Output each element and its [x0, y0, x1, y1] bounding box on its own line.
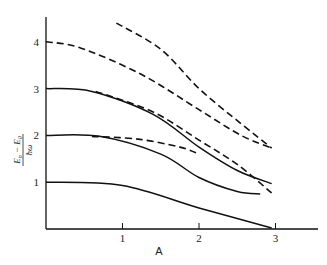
- dashed-from-2-curve: [92, 136, 199, 154]
- ticks: 1231234: [34, 36, 279, 244]
- x-axis-label: A: [155, 245, 163, 257]
- y-tick-label: 2: [34, 129, 40, 141]
- x-tick-label: 2: [196, 232, 202, 244]
- solid-level-2-curve: [46, 135, 260, 194]
- plot-area: 1231234 En − E0 ħω A: [0, 0, 327, 265]
- curves: [46, 23, 272, 228]
- x-tick-label: 3: [273, 232, 279, 244]
- svg-text:En − E0: En − E0: [12, 136, 23, 165]
- dashed-level-4-curve: [46, 42, 272, 148]
- y-tick-label: 1: [34, 176, 40, 188]
- dashed-top-curve: [116, 23, 271, 148]
- svg-text:ħω: ħω: [24, 145, 34, 156]
- y-tick-label: 4: [34, 36, 40, 48]
- solid-level-1-curve: [46, 182, 272, 228]
- y-tick-label: 3: [34, 83, 40, 95]
- y-axis-label: En − E0 ħω: [12, 134, 34, 166]
- x-tick-label: 1: [120, 232, 126, 244]
- dashed-from-3-curve: [96, 91, 272, 193]
- energy-level-chart: 1231234 En − E0 ħω A: [0, 0, 327, 265]
- solid-level-3-curve: [46, 89, 272, 184]
